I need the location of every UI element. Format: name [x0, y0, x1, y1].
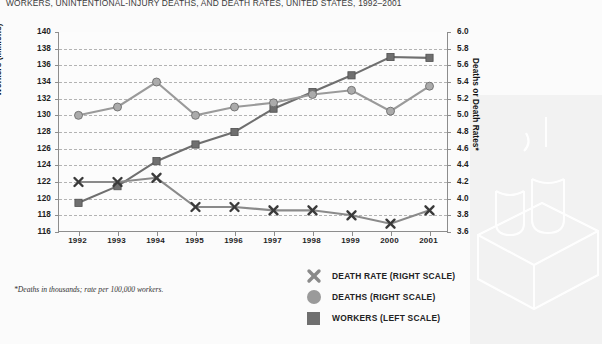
y-axis-left-tick-label: 134 — [25, 77, 51, 86]
data-point-square — [426, 54, 433, 61]
x-axis-tick-label: 1995 — [175, 236, 215, 245]
y-axis-left-tick-label: 120 — [25, 194, 51, 203]
data-point-square — [387, 53, 394, 60]
x-marker-icon — [306, 268, 322, 284]
y-axis-right-tick-label: 3.6 — [457, 227, 483, 236]
y-axis-left-tick-label: 124 — [25, 160, 51, 169]
chart-page: WORKERS, UNINTENTIONAL-INJURY DEATHS, AN… — [0, 0, 602, 344]
y-axis-left-tick-label: 136 — [25, 60, 51, 69]
y-axis-left-tick-label: 116 — [25, 227, 51, 236]
chart-title: WORKERS, UNINTENTIONAL-INJURY DEATHS, AN… — [6, 0, 402, 8]
y-axis-tick — [55, 232, 59, 233]
square-marker-icon — [306, 310, 322, 326]
legend-label: DEATH RATE (RIGHT SCALE) — [332, 271, 455, 281]
y-axis-left-tick-label: 128 — [25, 127, 51, 136]
data-point-circle — [348, 86, 356, 94]
data-point-circle — [192, 111, 200, 119]
data-point-square — [348, 72, 355, 79]
y-axis-left-tick-label: 140 — [25, 27, 51, 36]
x-axis-tick-label: 1998 — [292, 236, 332, 245]
y-axis-tick — [447, 232, 451, 233]
x-axis-tick-label: 2000 — [370, 236, 410, 245]
legend-label: DEATHS (RIGHT SCALE) — [332, 292, 435, 302]
x-axis-tick-label: 2001 — [409, 236, 449, 245]
data-point-circle — [387, 107, 395, 115]
y-axis-right-tick-label: 4.0 — [457, 194, 483, 203]
y-axis-left-tick-label: 122 — [25, 177, 51, 186]
data-point-square — [75, 199, 82, 206]
data-point-circle — [231, 103, 239, 111]
data-point-circle — [426, 82, 434, 90]
y-axis-right-tick-label: 4.4 — [457, 160, 483, 169]
y-axis-right-tick-label: 4.2 — [457, 177, 483, 186]
series-line — [79, 178, 430, 224]
y-axis-left-tick-label: 138 — [25, 44, 51, 53]
plot-area — [58, 32, 448, 232]
y-axis-right-tick-label: 5.8 — [457, 44, 483, 53]
data-point-circle — [309, 91, 317, 99]
x-axis-tick-label: 1994 — [136, 236, 176, 245]
data-point-circle — [75, 111, 83, 119]
data-point-square — [192, 141, 199, 148]
x-axis-tick-label: 1997 — [253, 236, 293, 245]
x-axis-tick-label: 1999 — [331, 236, 371, 245]
data-point-circle — [270, 99, 278, 107]
x-axis-tick-label: 1996 — [214, 236, 254, 245]
chart-footnote: *Deaths in thousands; rate per 100,000 w… — [14, 285, 163, 294]
data-point-square — [231, 128, 238, 135]
background-watermark-illustration — [470, 95, 602, 344]
data-point-square — [153, 158, 160, 165]
x-axis-tick-label: 1992 — [58, 236, 98, 245]
data-point-circle — [153, 78, 161, 86]
y-axis-left-tick-label: 126 — [25, 144, 51, 153]
data-point-circle — [114, 103, 122, 111]
y-axis-right-tick-label: 6.0 — [457, 27, 483, 36]
y-axis-right-tick-label: 3.8 — [457, 210, 483, 219]
y-axis-left-title: Workers (Millions) — [0, 23, 3, 96]
series-line — [79, 82, 430, 115]
y-axis-left-tick-label: 118 — [25, 210, 51, 219]
y-axis-left-tick-label: 132 — [25, 94, 51, 103]
series-layer — [59, 32, 449, 232]
y-axis-left-tick-label: 130 — [25, 110, 51, 119]
x-axis-tick-label: 1993 — [97, 236, 137, 245]
legend-label: WORKERS (LEFT SCALE) — [332, 313, 440, 323]
circle-marker-icon — [306, 289, 322, 305]
y-axis-right-title: Deaths or Death Rates* — [471, 58, 480, 151]
